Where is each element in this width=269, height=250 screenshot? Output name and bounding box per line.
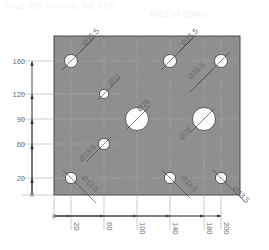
x-tick-180: 180 [205,222,214,235]
x-tick-20: 20 [72,222,81,230]
y-tick-120: 120 [12,90,25,99]
x-tick-labels: 20 60 100 140 180 200 [72,222,231,235]
y-tick-60: 60 [17,140,25,149]
x-tick-100: 100 [138,222,147,235]
technical-drawing: 160 120 90 60 20 20 60 100 140 180 200 [0,0,269,250]
y-tick-90: 90 [17,115,25,124]
x-tick-200: 200 [222,222,231,235]
x-tick-140: 140 [171,222,180,235]
x-tick-60: 60 [105,222,114,230]
y-tick-20: 20 [17,174,25,183]
y-tick-labels: 160 120 90 60 20 [12,57,25,183]
y-tick-160: 160 [12,57,25,66]
